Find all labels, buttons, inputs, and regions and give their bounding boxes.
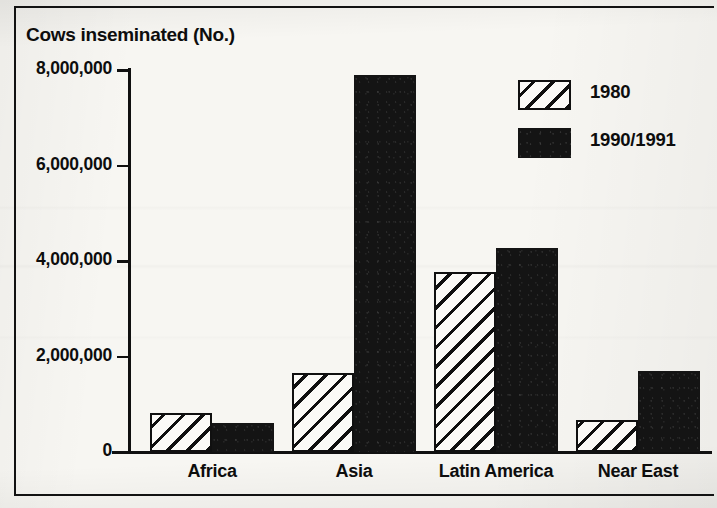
y-axis-tick-labels: 8,000,0006,000,0004,000,0002,000,0000: [0, 0, 112, 508]
bar-group: [150, 70, 274, 452]
y-axis-tick-label: 6,000,000: [36, 154, 112, 175]
x-label-asia: Asia: [278, 461, 430, 482]
bar-group: [292, 70, 416, 452]
legend-swatch-1980: [518, 80, 571, 110]
y-axis-tick: [117, 69, 130, 72]
legend-label-1990-1991: 1990/1991: [590, 129, 676, 151]
chart-figure: Cows inseminated (No.) 8,000,0006,000,00…: [0, 0, 717, 508]
legend-label-1980: 1980: [590, 81, 630, 103]
plot-area: [130, 70, 700, 452]
bar-group: [576, 70, 700, 452]
y-axis-tick-label: 2,000,000: [36, 345, 112, 366]
y-axis-tick: [117, 260, 130, 263]
bar-latin-america-1980: [434, 272, 496, 452]
bar-near-east-1980: [576, 420, 638, 452]
y-axis-tick: [117, 451, 130, 454]
bar-near-east-1990-1991: [638, 371, 700, 452]
y-axis-tick: [117, 165, 130, 168]
y-axis-tick-label: 4,000,000: [36, 249, 112, 270]
y-axis-tick-label: 8,000,000: [36, 58, 112, 79]
bar-asia-1980: [292, 373, 354, 452]
bar-africa-1980: [150, 413, 212, 452]
bar-latin-america-1990-1991: [496, 248, 558, 452]
x-label-near-east: Near East: [562, 461, 714, 482]
y-axis-tick: [117, 356, 130, 359]
bar-africa-1990-1991: [212, 423, 274, 452]
y-axis-tick-label: 0: [102, 440, 112, 461]
legend-swatch-1990-1991: [518, 128, 571, 158]
bar-asia-1990-1991: [354, 75, 416, 452]
x-label-africa: Africa: [136, 461, 288, 482]
x-label-latin-america: Latin America: [420, 461, 572, 482]
